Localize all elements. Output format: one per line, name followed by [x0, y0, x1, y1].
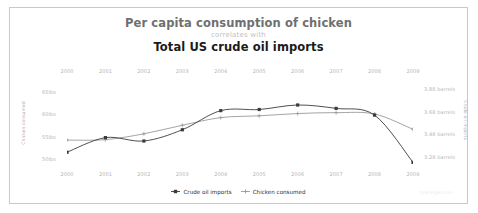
crude-oil-imports-marker	[411, 161, 413, 164]
crude-oil-imports-line	[67, 105, 413, 162]
chicken-consumed-marker	[180, 123, 184, 127]
x-axis-top-tick: 2007	[330, 68, 343, 74]
crude-oil-imports-marker	[104, 136, 107, 139]
page-title-primary: Per capita consumption of chicken	[10, 16, 467, 30]
square-marker-icon	[171, 188, 180, 195]
legend-item-crude-oil-imports[interactable]: Crude oil imports	[171, 188, 231, 195]
legend-item-chicken-consumed[interactable]: Chicken consumed	[241, 188, 306, 195]
x-axis-top-tick: 2005	[253, 68, 266, 74]
chicken-consumed-line	[67, 112, 413, 140]
x-axis-bottom-tick: 2000	[60, 171, 73, 177]
y-axis-right-tick: 3.48 barrels	[424, 131, 455, 137]
x-axis-top-tick: 2006	[291, 68, 304, 74]
y-axis-left-tick: 50lbs	[30, 156, 56, 162]
crude-oil-imports-marker	[219, 109, 222, 112]
crude-oil-imports-marker	[258, 108, 261, 111]
chicken-consumed-marker	[67, 138, 69, 142]
chart-plot-area	[67, 78, 413, 168]
chicken-consumed-marker	[219, 116, 223, 120]
x-axis-bottom-tick: 2006	[291, 171, 304, 177]
x-axis-bottom-tick: 2001	[99, 171, 112, 177]
x-axis-bottom-tick: 2003	[176, 171, 189, 177]
crude-oil-imports-marker	[67, 151, 69, 154]
crude-oil-imports-marker	[296, 103, 299, 106]
line-chart-svg	[67, 78, 413, 168]
y-axis-right-tick: 3.68 barrels	[424, 109, 455, 115]
x-axis-bottom-tick: 2004	[214, 171, 227, 177]
watermark-text: tylervigen.com	[420, 190, 453, 195]
title-connector: correlates with	[10, 30, 467, 40]
x-axis-top-tick: 2002	[137, 68, 150, 74]
x-axis-bottom-tick: 2005	[253, 171, 266, 177]
x-axis-bottom-tick: 2008	[368, 171, 381, 177]
chicken-consumed-marker	[257, 114, 261, 118]
y-axis-right-title: Crude oil imports	[463, 100, 468, 140]
y-axis-left-tick: 60lbs	[30, 111, 56, 117]
x-axis-top-tick: 2004	[214, 68, 227, 74]
y-axis-left-title: Chicken consumed	[21, 101, 26, 144]
chart-legend: Crude oil importsChicken consumed	[10, 188, 467, 195]
y-axis-right-tick: 3.28 barrels	[424, 154, 455, 160]
chicken-consumed-group	[67, 111, 413, 142]
crude-oil-imports-marker	[181, 128, 184, 131]
chicken-consumed-marker	[296, 112, 300, 116]
chart-title-block: Per capita consumption of chicken correl…	[10, 16, 467, 55]
crude-oil-imports-marker	[335, 107, 338, 110]
y-axis-right-tick: 3.88 barrels	[424, 86, 455, 92]
legend-label: Chicken consumed	[253, 189, 306, 195]
crude-oil-imports-marker	[142, 139, 145, 142]
x-axis-bottom-tick: 2009	[406, 171, 419, 177]
chicken-consumed-marker	[334, 111, 338, 115]
x-axis-bottom-tick: 2002	[137, 171, 150, 177]
chicken-consumed-marker	[142, 132, 146, 136]
page-title-secondary: Total US crude oil imports	[10, 40, 467, 55]
x-axis-top-tick: 2009	[406, 68, 419, 74]
chart-card: Per capita consumption of chicken correl…	[9, 7, 468, 204]
legend-label: Crude oil imports	[183, 189, 231, 195]
x-axis-top-tick: 2003	[176, 68, 189, 74]
x-axis-top-tick: 2008	[368, 68, 381, 74]
plus-marker-icon	[241, 188, 250, 195]
x-axis-bottom-tick: 2007	[330, 171, 343, 177]
y-axis-left-tick: 55lbs	[30, 134, 56, 140]
x-axis-top-tick: 2000	[60, 68, 73, 74]
chicken-consumed-marker	[411, 127, 413, 131]
x-axis-top-tick: 2001	[99, 68, 112, 74]
y-axis-left-tick: 65lbs	[30, 89, 56, 95]
crude-oil-imports-marker	[373, 114, 376, 117]
